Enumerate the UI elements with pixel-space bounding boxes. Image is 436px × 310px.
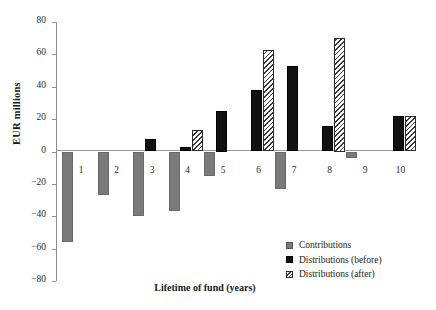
legend: ContributionsDistributions (before)Distr… <box>286 238 382 282</box>
y-tick: −80 <box>52 281 56 282</box>
legend-item-label: Distributions (before) <box>299 253 382 268</box>
x-category-label: 8 <box>323 165 337 175</box>
y-tick-label: 80 <box>20 15 46 25</box>
legend-swatch-contrib-icon <box>286 242 293 249</box>
y-tick: 20 <box>52 119 56 120</box>
bar-distributions-before <box>322 126 333 152</box>
bar-distributions-before <box>393 116 404 152</box>
x-category-label: 2 <box>110 165 124 175</box>
bar-distributions-after <box>405 116 416 152</box>
bar-distributions-before <box>180 147 191 152</box>
y-tick-label: −60 <box>20 242 46 252</box>
bar-contributions <box>275 152 286 189</box>
y-tick: −20 <box>52 184 56 185</box>
x-category-label: 9 <box>358 165 372 175</box>
legend-swatch-after-icon <box>286 271 293 278</box>
y-tick: 60 <box>52 54 56 55</box>
bar-distributions-after <box>192 130 203 151</box>
y-tick-label: −20 <box>20 177 46 187</box>
y-axis-line <box>56 22 57 281</box>
bar-distributions-before <box>216 111 227 151</box>
y-tick-label: 0 <box>20 145 46 155</box>
bar-contributions <box>346 152 357 158</box>
y-tick-label: −40 <box>20 209 46 219</box>
y-tick-label: 60 <box>20 47 46 57</box>
bar-distributions-before <box>145 139 156 152</box>
x-category-label: 10 <box>394 165 408 175</box>
x-category-label: 6 <box>252 165 266 175</box>
bar-contributions <box>133 152 144 217</box>
y-tick: 0 <box>52 152 56 153</box>
legend-item-label: Distributions (after) <box>299 267 375 282</box>
y-tick: 80 <box>52 22 56 23</box>
legend-item-label: Contributions <box>299 238 351 253</box>
legend-swatch-before-icon <box>286 256 293 263</box>
bar-contributions <box>98 152 109 196</box>
x-category-label: 4 <box>181 165 195 175</box>
y-tick: −60 <box>52 249 56 250</box>
x-axis-title: Lifetime of fund (years) <box>60 282 350 293</box>
legend-item: Distributions (before) <box>286 253 382 268</box>
bar-distributions-after <box>334 38 345 151</box>
x-category-label: 5 <box>216 165 230 175</box>
legend-item: Contributions <box>286 238 382 253</box>
legend-item: Distributions (after) <box>286 267 382 282</box>
bar-chart: EUR millions 806040200−20−40−60−80 12345… <box>0 0 436 310</box>
y-tick: −40 <box>52 216 56 217</box>
bar-distributions-before <box>287 66 298 152</box>
y-tick: 40 <box>52 87 56 88</box>
bar-contributions <box>62 152 73 243</box>
x-category-label: 1 <box>74 165 88 175</box>
y-tick-label: 40 <box>20 80 46 90</box>
bar-contributions <box>169 152 180 212</box>
zero-baseline <box>56 150 411 151</box>
y-tick-label: −80 <box>20 274 46 284</box>
bar-distributions-after <box>263 50 274 152</box>
bar-contributions <box>204 152 215 176</box>
y-tick-label: 20 <box>20 112 46 122</box>
x-category-label: 7 <box>287 165 301 175</box>
x-category-label: 3 <box>145 165 159 175</box>
bar-distributions-before <box>251 90 262 152</box>
